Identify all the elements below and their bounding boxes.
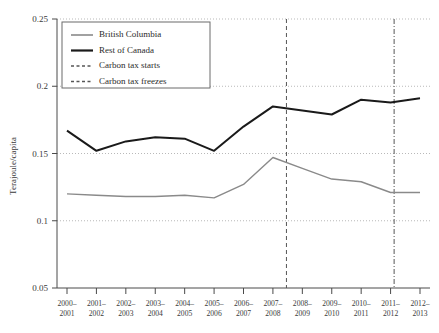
x-tick-label: 2001–: [87, 299, 106, 308]
chart-container: 0.050.10.150.20.25 2000–20012001–2002200…: [0, 0, 439, 333]
x-tick-label: 2004–: [175, 299, 194, 308]
y-tick-labels: 0.050.10.150.20.25: [32, 14, 48, 293]
y-tick-label: 0.2: [37, 81, 48, 91]
x-tick-label: 2012–: [411, 299, 430, 308]
legend-label: British Columbia: [99, 29, 161, 39]
y-axis-title: Terajoule/capita: [8, 137, 18, 195]
line-chart: 0.050.10.150.20.25 2000–20012001–2002200…: [0, 0, 439, 333]
x-tick-label: 2013: [412, 309, 427, 318]
y-tick-label: 0.05: [32, 283, 48, 293]
x-tick-label: 2008–: [293, 299, 312, 308]
y-tick-label: 0.15: [32, 149, 48, 159]
x-tick-label: 2003–: [146, 299, 165, 308]
x-tick-label: 2007–: [263, 299, 282, 308]
legend-label: Carbon tax freezes: [99, 76, 167, 86]
x-tick-label: 2002: [89, 309, 104, 318]
x-tick-label: 2005: [177, 309, 192, 318]
x-tick-label: 2009–: [322, 299, 341, 308]
series-line: [67, 98, 420, 150]
x-tick-label: 2006: [206, 309, 221, 318]
y-tick-marks: [52, 19, 57, 288]
x-tick-label: 2007: [236, 309, 251, 318]
x-tick-label: 2006–: [234, 299, 253, 308]
legend: British ColumbiaRest of CanadaCarbon tax…: [62, 22, 210, 88]
x-tick-labels: 2000–20012001–20022002–20032003–20042004…: [58, 299, 430, 318]
x-tick-label: 2005–: [205, 299, 224, 308]
x-tick-label: 2011–: [381, 299, 400, 308]
x-tick-label: 2012: [383, 309, 398, 318]
y-tick-label: 0.25: [32, 14, 48, 24]
x-tick-label: 2001: [59, 309, 74, 318]
x-tick-label: 2009: [295, 309, 310, 318]
event-marker-lines: [286, 19, 394, 288]
legend-label: Rest of Canada: [99, 45, 154, 55]
x-tick-marks: [67, 288, 420, 294]
x-tick-label: 2002–: [116, 299, 135, 308]
x-tick-label: 2010: [324, 309, 339, 318]
legend-label: Carbon tax starts: [99, 60, 160, 70]
x-tick-label: 2003: [118, 309, 133, 318]
x-tick-label: 2008: [265, 309, 280, 318]
x-tick-label: 2011: [354, 309, 369, 318]
x-tick-label: 2004: [148, 309, 163, 318]
x-tick-label: 2000–: [58, 299, 77, 308]
data-series: [67, 98, 420, 198]
x-tick-label: 2010–: [352, 299, 371, 308]
y-tick-label: 0.1: [37, 216, 48, 226]
series-line: [67, 158, 420, 198]
